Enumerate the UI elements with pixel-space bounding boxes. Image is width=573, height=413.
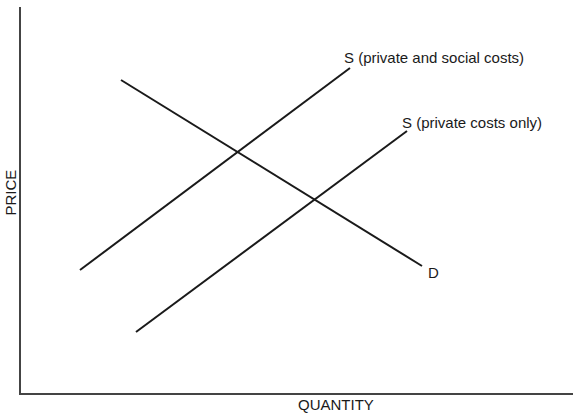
supply-social-label: S (private and social costs)	[344, 50, 524, 65]
supply-social-line	[80, 68, 350, 270]
demand-label: D	[428, 265, 439, 280]
demand-line	[121, 80, 422, 266]
supply-private-label: S (private costs only)	[402, 115, 542, 130]
x-axis-label: QUANTITY	[298, 397, 374, 412]
y-axis-label: PRICE	[3, 172, 18, 216]
